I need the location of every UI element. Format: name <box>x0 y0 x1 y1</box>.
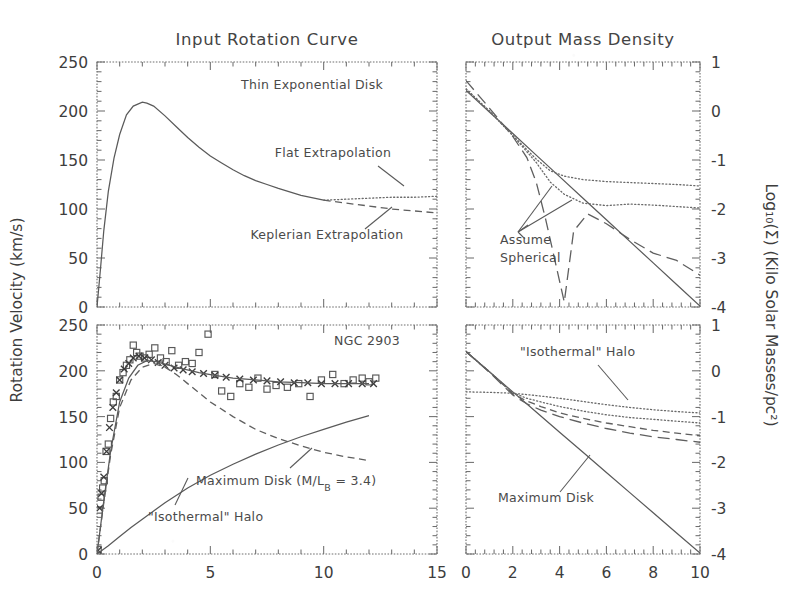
x-tick-label: 2 <box>508 564 518 582</box>
annotation-maximum-disk-ml: Maximum Disk (M/LB = 3.4) <box>196 473 376 493</box>
series-path <box>97 363 369 554</box>
series-path <box>324 200 437 213</box>
x-tick-label: 10 <box>314 564 334 582</box>
x-tick-label: 6 <box>601 564 611 582</box>
data-point-square <box>130 342 136 348</box>
data-point-square <box>359 375 365 381</box>
data-point-square <box>152 345 158 351</box>
x-tick-label: 15 <box>427 564 447 582</box>
y-tick-label: 0 <box>78 299 88 317</box>
y-tick-label: -3 <box>711 500 726 518</box>
y-axis-label-right: Log₁₀(Σ) (Kilo Solar Masses/pc²) <box>762 183 780 426</box>
y-tick-label: -3 <box>711 250 726 268</box>
data-point-square <box>284 384 290 390</box>
series-path <box>97 361 369 554</box>
y-tick-label: -4 <box>711 546 726 564</box>
data-point-square <box>108 415 114 421</box>
series-path <box>466 392 700 413</box>
y-tick-label: 150 <box>58 152 88 170</box>
series-path <box>97 102 324 307</box>
panel-top-right: -4-3-2-101 <box>466 54 726 317</box>
panel-title-input-rotation-curve: Input Rotation Curve <box>176 30 359 49</box>
x-tick-label: 8 <box>648 564 658 582</box>
y-tick-label: 250 <box>58 317 88 335</box>
annotation-maximum-disk-br: Maximum Disk <box>498 490 594 505</box>
annotation-isothermal-halo-br: "Isothermal" Halo <box>520 344 635 359</box>
panel-bottom-left: 050100150200250051015 <box>58 317 446 582</box>
y-axis-label-left: Rotation Velocity (km/s) <box>8 218 26 403</box>
annotation-assume: Assume <box>500 232 551 247</box>
panel-title-output-mass-density: Output Mass Density <box>491 30 674 49</box>
leader-line-flat <box>378 166 404 186</box>
y-tick-label: 1 <box>711 54 721 72</box>
y-tick-label: 1 <box>711 317 721 335</box>
y-tick-label: 250 <box>58 54 88 72</box>
leader-line-maxdisk-bl <box>290 448 312 468</box>
panel-top-left: 050100150200250 <box>58 54 437 317</box>
x-tick-label: 4 <box>555 564 565 582</box>
data-point-square <box>182 359 188 365</box>
y-tick-label: -4 <box>711 299 726 317</box>
data-point-square <box>169 348 175 354</box>
y-tick-label: 0 <box>78 546 88 564</box>
y-tick-label: 50 <box>68 500 88 518</box>
data-point-square <box>246 384 252 390</box>
data-point-square <box>196 349 202 355</box>
annotation-isothermal-halo-bl: "Isothermal" Halo <box>148 509 263 524</box>
data-point-square <box>219 388 225 394</box>
series-path <box>324 196 437 200</box>
y-tick-label: 200 <box>58 363 88 381</box>
x-tick-label: 10 <box>690 564 710 582</box>
series-path <box>466 81 700 302</box>
x-tick-label: 0 <box>461 564 471 582</box>
y-tick-label: -1 <box>711 152 726 170</box>
annotation-thin-exponential-disk: Thin Exponential Disk <box>240 77 383 92</box>
y-tick-label: 150 <box>58 409 88 427</box>
annotation-flat-extrapolation: Flat Extrapolation <box>275 145 391 160</box>
y-tick-label: 50 <box>68 250 88 268</box>
annotation-spherical: Spherical <box>500 250 561 265</box>
series-path <box>466 89 700 208</box>
figure-canvas: 050100150200250-4-3-2-101050100150200250… <box>0 0 786 615</box>
plot-frame <box>466 325 700 554</box>
data-point-square <box>373 375 379 381</box>
x-tick-label: 5 <box>205 564 215 582</box>
y-tick-label: 0 <box>711 363 721 381</box>
data-point-square <box>330 371 336 377</box>
data-point-square <box>105 441 111 447</box>
series-path <box>466 352 700 436</box>
y-tick-label: 200 <box>58 103 88 121</box>
x-tick-label: 0 <box>92 564 102 582</box>
series-path <box>466 352 700 423</box>
y-tick-label: -2 <box>711 201 726 219</box>
series-path <box>466 89 700 186</box>
data-point-square <box>307 393 313 399</box>
data-point-square <box>264 386 270 392</box>
svg-text:Maximum Disk (M/LB = 3.4): Maximum Disk (M/LB = 3.4) <box>196 473 376 493</box>
y-tick-label: 0 <box>711 103 721 121</box>
leader-line-isothermal-bl <box>175 478 188 505</box>
series-path <box>466 352 700 443</box>
y-tick-label: -1 <box>711 409 726 427</box>
leader-line-isothermal-br <box>598 365 628 400</box>
y-tick-label: -2 <box>711 454 726 472</box>
annotation-galaxy-name: NGC 2903 <box>334 333 400 348</box>
data-point-square <box>189 360 195 366</box>
y-tick-label: 100 <box>58 201 88 219</box>
annotation-keplerian-extrapolation: Keplerian Extrapolation <box>250 227 403 242</box>
y-tick-label: 100 <box>58 454 88 472</box>
plot-frame <box>466 62 700 307</box>
data-point-square <box>228 393 234 399</box>
leader-line-assume-b <box>518 200 572 232</box>
leader-line-maxdisk-br <box>560 455 590 492</box>
leader-line-keplerian <box>365 207 392 229</box>
